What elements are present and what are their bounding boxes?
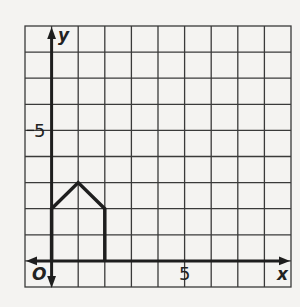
y-axis-label: y — [58, 25, 70, 45]
origin-label: O — [32, 264, 46, 284]
y-axis-arrow-down-icon — [47, 276, 56, 288]
grid — [25, 26, 291, 287]
coordinate-plane: y x O 5 5 — [0, 0, 300, 307]
x-tick-label-5: 5 — [179, 263, 190, 284]
y-axis-arrow-up-icon — [47, 27, 56, 39]
x-axis-label: x — [276, 264, 289, 284]
y-tick-label-5: 5 — [34, 120, 45, 141]
